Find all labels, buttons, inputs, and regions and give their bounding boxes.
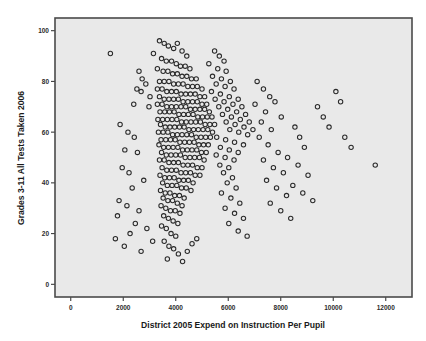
x-tick-label: 6000 (221, 304, 236, 311)
y-tick-label: 60 (42, 129, 50, 136)
x-tick-label: 4000 (169, 304, 184, 311)
y-tick-label: 100 (38, 27, 49, 34)
x-tick-label: 8000 (274, 304, 289, 311)
scatter-plot-figure: 020004000600080001000012000 020406080100… (0, 0, 426, 341)
y-tick-label: 40 (42, 179, 50, 186)
x-tick-label: 0 (69, 304, 73, 311)
y-tick-label: 20 (42, 230, 50, 237)
x-tick-label: 10000 (324, 304, 342, 311)
scatter-chart-canvas: 020004000600080001000012000 020406080100… (0, 0, 426, 341)
y-axis-title: Grades 3-11 All Tests Taken 2006 (16, 91, 26, 225)
x-tick-label: 2000 (116, 304, 131, 311)
y-tick-label: 0 (45, 281, 49, 288)
x-tick-label: 12000 (377, 304, 395, 311)
x-axis-title: District 2005 Expend on Instruction Per … (141, 320, 325, 330)
y-tick-label: 80 (42, 78, 50, 85)
